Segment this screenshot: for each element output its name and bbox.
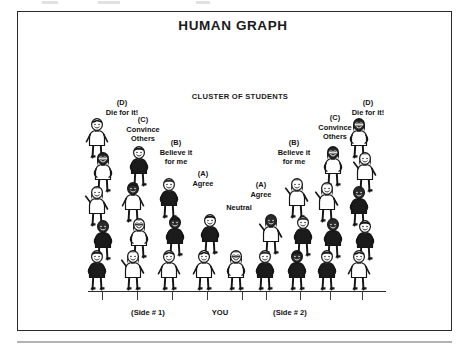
label-text: Believe it for me (278, 148, 310, 167)
student-figure (189, 249, 219, 291)
label-agree-right: (A)Agree (240, 180, 282, 199)
student-figure (221, 249, 251, 291)
axis-label-side-1: (Side # 1) (118, 308, 178, 317)
label-text: Believe it for me (160, 148, 192, 167)
student-figure (250, 249, 280, 291)
student-figure (282, 177, 312, 219)
crowd-figures (0, 0, 466, 300)
footer-rule (17, 341, 452, 343)
label-neutral: Neutral (218, 203, 260, 213)
label-tag: (D) (96, 98, 148, 108)
label-believe-it-right: (B)Believe it for me (268, 138, 320, 167)
student-figure (312, 249, 342, 291)
baseline-axis (88, 291, 386, 292)
axis-tick-2 (172, 292, 173, 300)
label-tag: (A) (182, 169, 224, 179)
axis-tick-5 (266, 292, 267, 300)
axis-tick-7 (330, 292, 331, 300)
student-figure (154, 177, 184, 219)
axis-tick-1 (137, 292, 138, 300)
label-die-for-it-right: (D)Die for it! (342, 98, 394, 117)
student-figure (154, 249, 184, 291)
label-text: Agree (251, 190, 272, 199)
axis-tick-3 (207, 292, 208, 300)
page-root: HUMAN GRAPH CLUSTER OF STUDENTS (D)Die f… (0, 0, 466, 358)
student-figure (82, 249, 112, 291)
label-agree-left: (A)Agree (182, 169, 224, 188)
axis-tick-8 (362, 292, 363, 300)
axis-tick-0 (102, 292, 103, 300)
label-tag: (B) (150, 138, 202, 148)
axis-tick-4 (242, 292, 243, 300)
label-tag: (C) (118, 115, 168, 125)
student-figure (118, 249, 148, 291)
student-figure (344, 249, 374, 291)
label-text: Die for it! (352, 108, 384, 117)
label-text: Neutral (226, 203, 251, 212)
label-tag: (D) (342, 98, 394, 108)
label-text: Agree (193, 179, 214, 188)
axis-tick-6 (300, 292, 301, 300)
axis-label-side-2: (Side # 2) (260, 308, 320, 317)
label-believe-it-left: (B)Believe it for me (150, 138, 202, 167)
student-figure (282, 249, 312, 291)
axis-label-you: YOU (190, 308, 250, 317)
label-tag: (A) (240, 180, 282, 190)
